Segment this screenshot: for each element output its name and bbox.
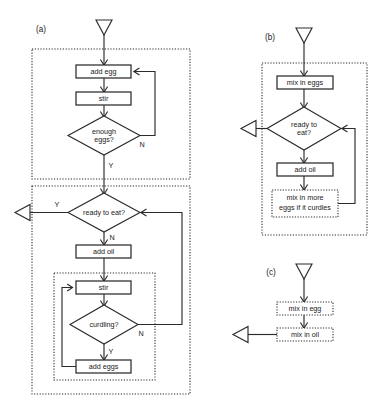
panel-a-label: (a) bbox=[36, 25, 46, 34]
branch-ready-to-eat-a-yes: Y bbox=[55, 200, 60, 209]
node-add-eggs-label: add eggs bbox=[89, 362, 119, 371]
panel-a: (a) add egg stir enough eggs? N bbox=[15, 20, 190, 394]
entry-terminal-icon-c bbox=[296, 264, 312, 279]
panel-b-label: (b) bbox=[265, 33, 275, 42]
branch-curdling-yes: Y bbox=[109, 347, 114, 356]
edge-curdling-no-loop bbox=[138, 213, 182, 325]
node-curdling-label: curdling? bbox=[89, 320, 118, 329]
exit-terminal-icon-a bbox=[15, 205, 30, 221]
exit-terminal-icon-c bbox=[233, 327, 248, 343]
node-ready-to-eat-a-label: ready to eat? bbox=[83, 208, 125, 217]
node-mix-in-egg-label: mix in egg bbox=[289, 304, 322, 313]
edge-enough-eggs-no-loop bbox=[134, 72, 155, 136]
branch-enough-eggs-no: N bbox=[139, 140, 144, 149]
node-enough-eggs-label-line2: eggs? bbox=[94, 135, 114, 144]
node-mix-in-eggs-label: mix in eggs bbox=[287, 78, 324, 87]
branch-ready-to-eat-a-no: N bbox=[109, 233, 114, 242]
entry-terminal-icon-b bbox=[296, 28, 312, 43]
branch-enough-eggs-yes: Y bbox=[109, 161, 114, 170]
panel-c: (c) mix in egg mix in oil bbox=[233, 264, 333, 343]
node-mix-in-more-eggs-label-line1: mix in more bbox=[286, 193, 323, 202]
node-mix-in-more-eggs-label-line2: eggs if it curdles bbox=[279, 203, 331, 212]
entry-terminal-icon-a bbox=[96, 20, 112, 35]
node-ready-to-eat-b-label-line2: eat? bbox=[297, 128, 311, 137]
edge-mix-more-loop-to-ready bbox=[338, 129, 355, 204]
flowchart-figure: (a) add egg stir enough eggs? N bbox=[0, 0, 388, 418]
node-stir-bottom-label: stir bbox=[99, 283, 109, 292]
node-add-egg-label: add egg bbox=[91, 67, 117, 76]
flowchart-canvas: (a) add egg stir enough eggs? N bbox=[0, 0, 388, 418]
exit-terminal-icon-b bbox=[241, 121, 256, 137]
node-add-oil-a-label: add oil bbox=[93, 247, 115, 256]
branch-curdling-no: N bbox=[138, 329, 143, 338]
node-add-oil-b-label: add oil bbox=[294, 165, 316, 174]
panel-c-label: (c) bbox=[266, 268, 276, 277]
panel-b: (b) mix in eggs ready to eat? add oil mi bbox=[241, 28, 367, 235]
node-stir-top-label: stir bbox=[99, 94, 109, 103]
node-mix-in-oil-label: mix in oil bbox=[291, 330, 319, 339]
